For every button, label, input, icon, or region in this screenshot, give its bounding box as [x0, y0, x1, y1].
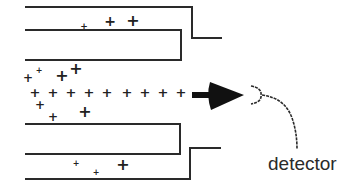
scattered-ion-icon: + [126, 13, 139, 29]
detector-cup [251, 86, 261, 104]
beam-ion-icon: + [30, 86, 41, 99]
scattered-ion-icon: + [73, 160, 80, 168]
scattered-ion-icon: + [104, 14, 116, 28]
scattered-ion-icon: + [23, 72, 33, 84]
scattered-ion-icon: + [35, 99, 45, 111]
beam-arrow-icon [192, 82, 244, 110]
scattered-ion-icon: + [55, 68, 68, 84]
scattered-ion-icon: + [93, 169, 100, 177]
beam-ion-icon: + [48, 86, 59, 99]
top-outer-wall [25, 7, 222, 38]
detector-label: detector [268, 154, 337, 173]
beam-ion-icon: + [102, 86, 113, 99]
top-inner-plate [25, 30, 181, 60]
bottom-inner-plate [25, 124, 180, 154]
scattered-ion-icon: + [48, 111, 58, 123]
mass-spectrometer-diagram: ++++++++++++++++++++++ detector [0, 0, 364, 194]
scattered-ion-icon: + [78, 104, 91, 120]
scattered-ion-icon: + [116, 157, 129, 173]
beam-ion-icon: + [140, 86, 151, 99]
scattered-ion-icon: + [69, 61, 82, 77]
detector-icon [251, 86, 297, 149]
arrow-head [208, 82, 244, 110]
scattered-ion-icon: + [36, 67, 43, 75]
top-electrode [25, 7, 222, 60]
beam-ion-icon: + [66, 86, 77, 99]
beam-ion-icon: + [84, 86, 95, 99]
beam-ion-icon: + [122, 86, 133, 99]
scattered-ion-icon: + [80, 22, 88, 31]
detector-lead [262, 95, 297, 149]
beam-ion-icon: + [176, 86, 187, 99]
beam-ion-icon: + [158, 86, 169, 99]
